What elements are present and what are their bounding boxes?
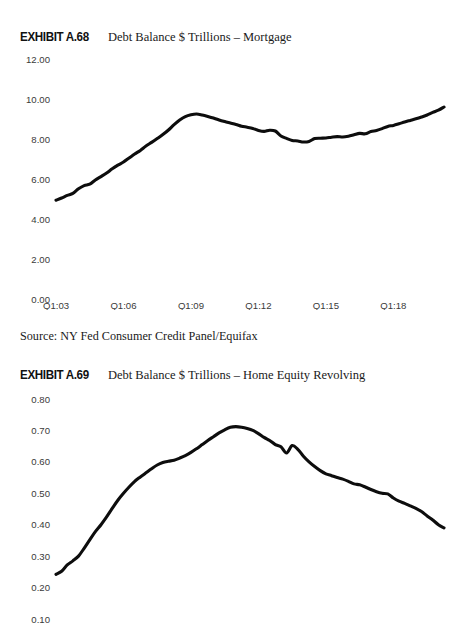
chart-a68-x-axis: Q1:03Q1:06Q1:09Q1:12Q1:15Q1:18 [43, 300, 407, 310]
exhibit-heading-a68: EXHIBIT A.68Debt Balance $ Trillions – M… [20, 27, 292, 45]
chart-a69-svg: 0.800.700.600.500.400.300.200.10 [0, 388, 453, 627]
chart-a68-y-axis: 12.0010.008.006.004.002.000.00 [26, 54, 50, 305]
exhibit-tag-a68: EXHIBIT A.68 [20, 30, 89, 44]
chart-a69-y-axis: 0.800.700.600.500.400.300.200.10 [31, 394, 50, 625]
y-tick-label: 0.10 [31, 614, 50, 625]
x-tick-label: Q1:12 [245, 300, 271, 310]
chart-a68-data-line [56, 107, 444, 200]
y-tick-label: 0.30 [31, 551, 50, 562]
y-tick-label: 0.60 [31, 456, 50, 467]
chart-a69: 0.800.700.600.500.400.300.200.10 [0, 388, 453, 627]
exhibit-description-a69: Debt Balance $ Trillions – Home Equity R… [108, 368, 365, 382]
document-page: EXHIBIT A.68Debt Balance $ Trillions – M… [0, 0, 453, 627]
source-note-a68: Source: NY Fed Consumer Credit Panel/Equ… [20, 329, 258, 344]
chart-a68-svg: 12.0010.008.006.004.002.000.00 Q1:03Q1:0… [0, 48, 453, 310]
exhibit-tag-a69: EXHIBIT A.69 [20, 368, 89, 382]
exhibit-heading-a69: EXHIBIT A.69Debt Balance $ Trillions – H… [20, 365, 365, 383]
y-tick-label: 0.20 [31, 582, 50, 593]
y-tick-label: 10.00 [26, 94, 50, 105]
chart-a68: 12.0010.008.006.004.002.000.00 Q1:03Q1:0… [0, 48, 453, 310]
x-tick-label: Q1:18 [380, 300, 406, 310]
y-tick-label: 0.80 [31, 394, 50, 405]
y-tick-label: 12.00 [26, 54, 50, 65]
exhibit-description-a68: Debt Balance $ Trillions – Mortgage [108, 30, 292, 44]
x-tick-label: Q1:09 [178, 300, 204, 310]
y-tick-label: 2.00 [31, 254, 50, 265]
y-tick-label: 0.40 [31, 519, 50, 530]
x-tick-label: Q1:15 [313, 300, 339, 310]
y-tick-label: 8.00 [31, 134, 50, 145]
y-tick-label: 6.00 [31, 174, 50, 185]
y-tick-label: 4.00 [31, 214, 50, 225]
chart-a69-data-line [56, 427, 444, 575]
x-tick-label: Q1:03 [43, 300, 69, 310]
y-tick-label: 0.50 [31, 488, 50, 499]
x-tick-label: Q1:06 [110, 300, 136, 310]
y-tick-label: 0.70 [31, 425, 50, 436]
